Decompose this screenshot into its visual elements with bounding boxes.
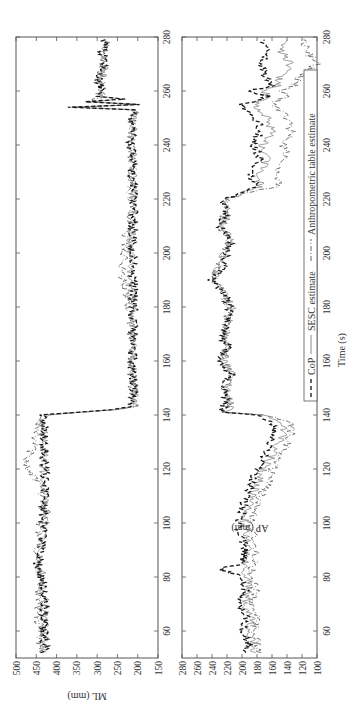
series-line-sesc-estimate <box>35 40 139 653</box>
y-tick-label: 180 <box>253 661 263 676</box>
ap-plot-frame <box>182 37 317 658</box>
y-tick-label: 300 <box>93 661 103 676</box>
y-tick-label: 200 <box>238 661 248 676</box>
x-tick-label: 140 <box>162 408 172 423</box>
y-tick-label: 350 <box>72 661 82 676</box>
y-tick-label: 160 <box>268 661 278 676</box>
y-tick-label: 120 <box>298 661 308 676</box>
y-tick-label: 400 <box>52 661 62 676</box>
y-tick-label: 140 <box>283 661 293 676</box>
x-tick-label: 220 <box>162 192 172 207</box>
legend: CoP SESC estimate Anthropometric table e… <box>304 70 317 401</box>
y-tick-label: 280 <box>178 661 188 676</box>
x-axis-label: Time (s) <box>336 333 348 367</box>
ap-y-axis-label: AP (mm) <box>231 522 268 534</box>
x-tick-label: 60 <box>322 626 332 636</box>
y-tick-label: 260 <box>193 661 203 676</box>
x-tick-label: 200 <box>322 246 332 261</box>
x-tick-label: 200 <box>162 246 172 261</box>
x-tick-label: 180 <box>162 300 172 315</box>
x-tick-label: 240 <box>322 138 332 153</box>
ml-series <box>24 40 140 653</box>
ap-panel: 280260240220200180160140120100 608010012… <box>178 30 333 676</box>
x-tick-label: 120 <box>162 462 172 477</box>
x-tick-label: 240 <box>162 138 172 153</box>
y-tick-label: 500 <box>12 661 22 676</box>
legend-sesc-label: SESC estimate <box>306 271 317 331</box>
x-tick-label: 120 <box>322 462 332 477</box>
rotated-figure: 500450400350300250200150 608010012014016… <box>0 0 357 701</box>
legend-cop-label: CoP <box>306 357 317 375</box>
y-tick-label: 100 <box>313 661 323 676</box>
y-tick-label: 240 <box>208 661 218 676</box>
x-tick-label: 160 <box>162 354 172 369</box>
x-tick-label: 180 <box>322 300 332 315</box>
x-tick-label: 100 <box>162 516 172 531</box>
series-line-cop <box>208 40 278 653</box>
x-tick-label: 260 <box>162 84 172 99</box>
x-tick-label: 140 <box>322 408 332 423</box>
series-line-cop <box>33 40 140 653</box>
x-tick-label: 220 <box>322 192 332 207</box>
ml-x-ticks: 6080100120140160180200220240260280 <box>16 30 172 636</box>
y-tick-label: 220 <box>223 661 233 676</box>
y-tick-label: 250 <box>113 661 123 676</box>
ml-panel: 500450400350300250200150 608010012014016… <box>12 30 173 701</box>
y-tick-label: 150 <box>154 661 164 676</box>
x-tick-label: 60 <box>162 626 172 636</box>
x-tick-label: 100 <box>322 516 332 531</box>
x-tick-label: 80 <box>322 572 332 582</box>
x-tick-label: 80 <box>162 572 172 582</box>
x-tick-label: 280 <box>322 30 332 45</box>
x-tick-label: 280 <box>162 30 172 45</box>
ap-series <box>208 40 321 653</box>
x-tick-label: 260 <box>322 84 332 99</box>
y-tick-label: 200 <box>133 661 143 676</box>
chart-svg: 500450400350300250200150 608010012014016… <box>0 0 357 701</box>
y-tick-label: 450 <box>32 661 42 676</box>
ml-y-ticks: 500450400350300250200150 <box>12 37 164 675</box>
legend-anthro-label: Anthropometric table estimate <box>306 113 317 235</box>
ml-y-axis-label: ML (mm) <box>67 690 106 701</box>
x-tick-label: 160 <box>322 354 332 369</box>
